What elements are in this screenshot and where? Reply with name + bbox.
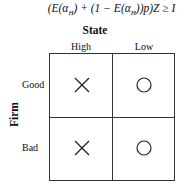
row-label-good: Good	[22, 79, 44, 90]
state-axis-title: State	[83, 24, 108, 36]
outcome-matrix	[49, 53, 175, 181]
column-label-high: High	[71, 41, 91, 52]
grid-divider-horizontal	[50, 117, 174, 118]
firm-axis-title: Firm	[8, 105, 20, 127]
circle-icon	[136, 77, 152, 93]
cross-icon	[74, 77, 90, 93]
column-label-low: Low	[135, 41, 153, 52]
row-label-bad: Bad	[22, 142, 38, 153]
circle-icon	[136, 140, 152, 156]
condition-formula: (E(αH) + (1 − E(αH))p)Z ≥ I	[40, 2, 183, 18]
cross-icon	[74, 140, 90, 156]
formula-part: ))p)Z ≥ I	[136, 2, 176, 14]
formula-part: ) + (1 − E(α	[73, 2, 130, 14]
formula-part: (E(α	[48, 2, 69, 14]
